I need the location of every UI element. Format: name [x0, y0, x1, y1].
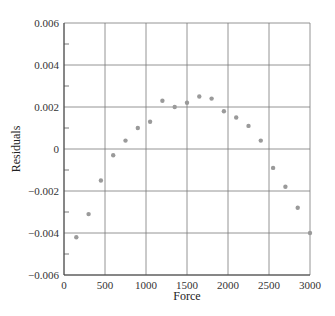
data-point — [209, 96, 213, 100]
data-point — [283, 185, 287, 189]
data-point — [136, 126, 140, 130]
residual-plot: 0500100015002000250030000.0060.0040.0020… — [0, 0, 335, 316]
x-tick-label: 2500 — [258, 279, 281, 291]
data-point — [86, 212, 90, 216]
axis-ticks: 0500100015002000250030000.0060.0040.0020… — [28, 17, 321, 291]
data-point — [173, 105, 177, 109]
y-tick-label: 0.006 — [34, 17, 59, 29]
x-axis-label: Force — [173, 289, 200, 303]
x-tick-label: 3000 — [299, 279, 322, 291]
data-point — [197, 94, 201, 98]
data-point — [222, 109, 226, 113]
y-tick-label: −0.006 — [28, 269, 59, 281]
data-point — [111, 153, 115, 157]
data-point — [185, 101, 189, 105]
data-point — [74, 235, 78, 239]
grid — [64, 23, 310, 275]
y-axis-label: Residuals — [9, 125, 23, 172]
y-tick-label: 0.004 — [34, 59, 59, 71]
data-point — [271, 166, 275, 170]
data-point — [308, 231, 312, 235]
data-point — [259, 138, 263, 142]
data-point — [234, 115, 238, 119]
data-point — [99, 178, 103, 182]
data-point — [148, 120, 152, 124]
y-tick-label: 0 — [54, 143, 60, 155]
y-tick-label: 0.002 — [34, 101, 59, 113]
x-tick-label: 2000 — [217, 279, 240, 291]
data-points — [74, 94, 312, 239]
data-point — [296, 206, 300, 210]
x-tick-label: 1000 — [135, 279, 158, 291]
data-point — [246, 124, 250, 128]
y-tick-label: −0.002 — [28, 185, 59, 197]
y-tick-label: −0.004 — [28, 227, 59, 239]
data-point — [123, 138, 127, 142]
data-point — [160, 99, 164, 103]
x-tick-label: 500 — [97, 279, 114, 291]
x-tick-label: 0 — [61, 279, 67, 291]
